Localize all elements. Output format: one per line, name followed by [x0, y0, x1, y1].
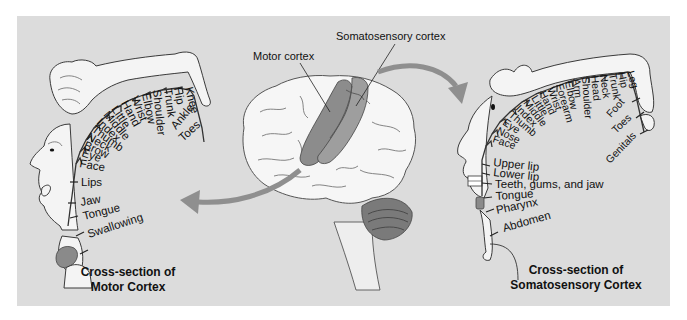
motor-eye-icon	[50, 148, 54, 151]
somato-section-title-line2: Somatosensory Cortex	[510, 278, 642, 292]
motor-label-lips: Lips	[81, 176, 102, 188]
somato-section-title-line1: Cross-section of	[529, 263, 625, 277]
somatosensory-cortex-label: Somatosensory cortex	[336, 30, 446, 42]
motor-section-title-line2: Motor Cortex	[91, 280, 166, 294]
motor-cortex-label: Motor cortex	[253, 50, 315, 62]
motor-section-title-line1: Cross-section of	[81, 265, 177, 279]
somato-tongue-organ	[476, 197, 484, 209]
cortex-homunculus-diagram: Knee Hip Trunk Shoulder Elbow Wrist Hand…	[0, 0, 687, 320]
somato-eye-icon	[491, 104, 495, 110]
